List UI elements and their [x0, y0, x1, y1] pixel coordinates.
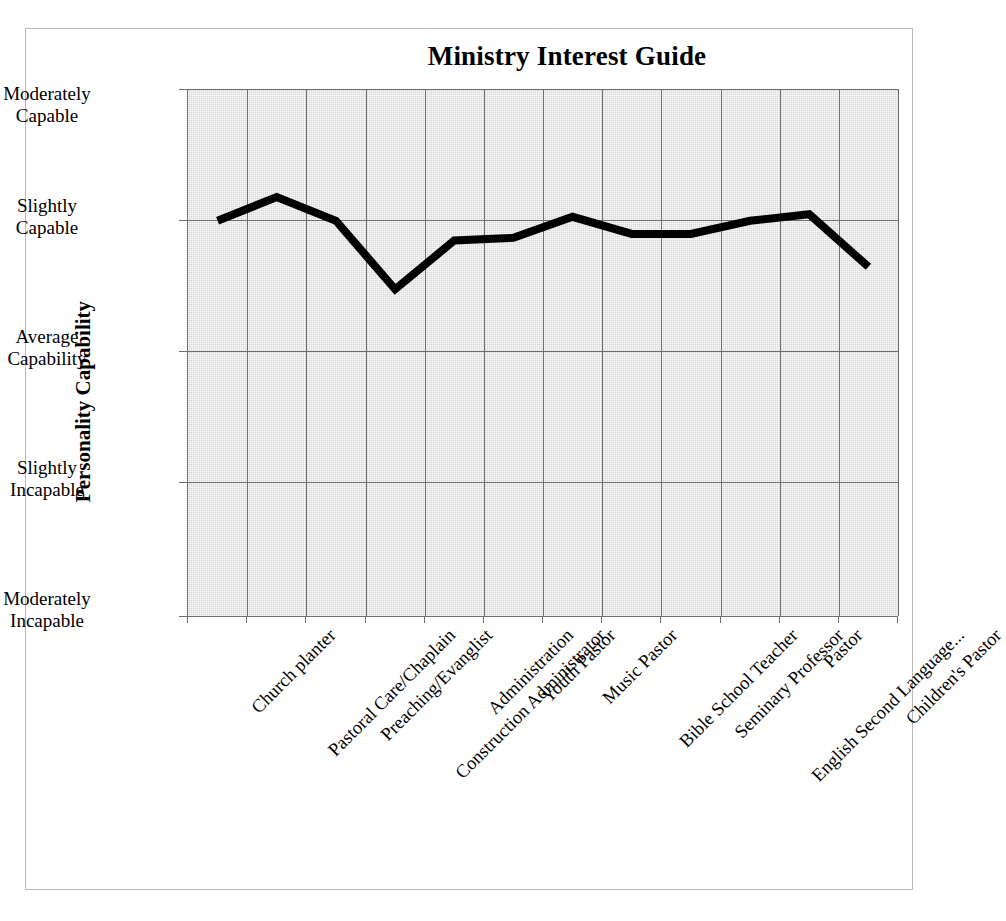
x-tick-mark-2 [305, 616, 306, 623]
y-tick-line-1: Slightly [0, 195, 122, 217]
y-tick-label-average-capability: Average Capability [0, 326, 122, 370]
series-line-personality-capability [188, 89, 898, 616]
x-tick-mark-1 [246, 616, 247, 623]
plot-area [187, 89, 898, 617]
y-tick-mark-0 [179, 351, 187, 352]
y-tick-line-2: Capable [0, 217, 122, 239]
chart-frame: Ministry Interest Guide Personality Capa… [25, 28, 913, 890]
y-tick-mark-n1 [179, 482, 187, 483]
y-tick-line-1: Moderately [0, 83, 122, 105]
x-tick-mark-8 [660, 616, 661, 623]
x-tick-mark-7 [601, 616, 602, 623]
y-tick-label-slightly-capable: Slightly Capable [0, 195, 122, 239]
x-tick-mark-4 [424, 616, 425, 623]
x-tick-mark-9 [720, 616, 721, 623]
x-tick-mark-0 [187, 616, 188, 623]
y-tick-mark-2 [179, 89, 187, 90]
y-tick-label-moderately-capable: Moderately Capable [0, 83, 122, 127]
y-tick-line-1: Slightly [0, 457, 122, 479]
x-tick-label-0: Church planter [247, 625, 340, 718]
y-tick-mark-1 [179, 220, 187, 221]
x-tick-mark-3 [365, 616, 366, 623]
x-tick-mark-10 [779, 616, 780, 623]
x-tick-mark-6 [542, 616, 543, 623]
series-polyline [218, 197, 869, 289]
y-tick-label-slightly-incapable: Slightly Incapable [0, 457, 122, 501]
x-tick-mark-12 [897, 616, 898, 623]
y-tick-line-2: Incapable [0, 479, 122, 501]
x-tick-mark-11 [838, 616, 839, 623]
chart-title: Ministry Interest Guide [212, 41, 922, 72]
y-tick-line-2: Capability [0, 348, 122, 370]
x-tick-mark-5 [483, 616, 484, 623]
y-tick-mark-n2 [179, 616, 187, 617]
y-tick-line-2: Capable [0, 105, 122, 127]
y-tick-line-1: Average [0, 326, 122, 348]
y-tick-label-moderately-incapable: Moderately Incapable [0, 588, 122, 632]
y-tick-line-2: Incapable [0, 610, 122, 632]
y-tick-line-1: Moderately [0, 588, 122, 610]
